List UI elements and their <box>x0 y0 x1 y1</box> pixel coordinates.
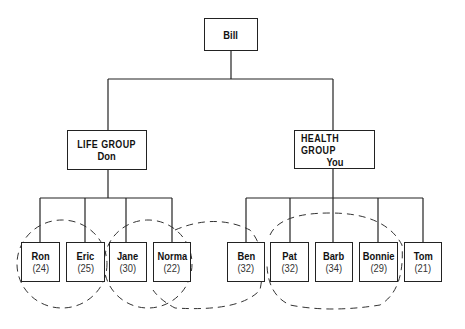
member-age: (32) <box>238 262 255 274</box>
member-bonnie: Bonnie (29) <box>359 242 398 282</box>
member-name: Norma <box>157 250 187 262</box>
member-age: (29) <box>370 262 387 274</box>
member-ben: Ben (32) <box>227 242 265 282</box>
member-jane: Jane (30) <box>109 242 147 282</box>
member-ron: Ron (24) <box>21 242 60 282</box>
life-group-node: LIFE GROUP Don <box>67 130 147 170</box>
root-name: Bill <box>224 29 239 41</box>
member-pat: Pat (32) <box>270 242 309 282</box>
member-name: Jane <box>117 250 138 262</box>
member-name: Barb <box>323 250 344 262</box>
member-name: Tom <box>413 250 432 262</box>
member-name: Bonnie <box>363 250 395 262</box>
member-name: Pat <box>282 250 297 262</box>
member-norma: Norma (22) <box>153 242 191 282</box>
health-group-title: HEALTH GROUP <box>301 132 368 156</box>
life-group-manager: Don <box>98 150 116 162</box>
member-age: (30) <box>120 262 137 274</box>
health-group-manager: You <box>326 156 343 168</box>
member-age: (34) <box>326 262 343 274</box>
member-name: Eric <box>77 250 95 262</box>
member-age: (22) <box>164 262 181 274</box>
member-eric: Eric (25) <box>66 242 105 282</box>
root-node: Bill <box>204 18 258 51</box>
member-age: (25) <box>77 262 94 274</box>
member-tom: Tom (21) <box>404 242 442 282</box>
member-barb: Barb (34) <box>315 242 353 282</box>
health-group-node: HEALTH GROUP You <box>294 130 375 169</box>
member-age: (21) <box>415 262 432 274</box>
life-group-title: LIFE GROUP <box>78 138 137 150</box>
member-age: (32) <box>281 262 298 274</box>
member-name: Ron <box>31 250 49 262</box>
member-age: (24) <box>32 262 49 274</box>
member-name: Ben <box>237 250 255 262</box>
